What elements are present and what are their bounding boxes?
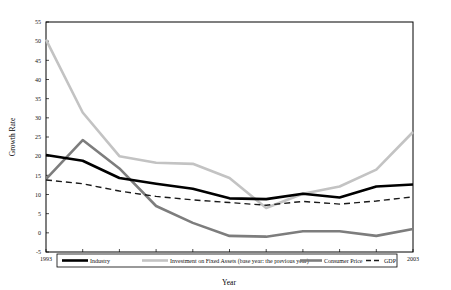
y-tick-label: -5: [36, 249, 41, 255]
y-tick-label: 45: [35, 58, 41, 64]
x-axis-title: Year: [222, 278, 236, 287]
y-tick-label: 15: [35, 173, 41, 179]
y-tick-label: 25: [35, 134, 41, 140]
y-tick-label: 5: [38, 211, 41, 217]
y-tick-label: 30: [35, 115, 41, 121]
y-axis-title: Growth Rate: [8, 117, 17, 156]
x-tick-label: 1993: [40, 256, 52, 262]
y-tick-label: 50: [35, 38, 41, 44]
chart-container: -50510152025303540455055 199319941995199…: [0, 0, 451, 290]
legend-label-gdp: GDP: [384, 258, 397, 264]
y-tick-label: 40: [35, 77, 41, 83]
y-tick-label: 20: [35, 153, 41, 159]
x-tick-label: 2003: [407, 256, 419, 262]
legend-label-industry: Industry: [90, 258, 110, 264]
legend-label-investment-fixed-assets: Investment on Fixed Assets (base year: t…: [170, 258, 309, 265]
y-tick-label: 0: [38, 230, 41, 236]
line-chart: -50510152025303540455055 199319941995199…: [0, 0, 451, 290]
y-tick-label: 55: [35, 19, 41, 25]
legend-label-consumer-price: Consumer Price: [324, 258, 363, 264]
y-tick-label: 35: [35, 96, 41, 102]
y-tick-label: 10: [35, 192, 41, 198]
